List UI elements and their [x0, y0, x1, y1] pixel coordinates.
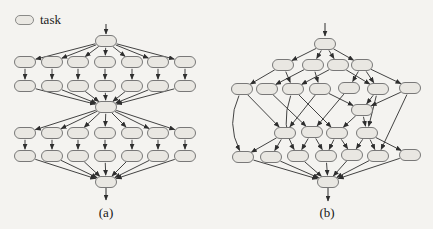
task-node	[122, 151, 143, 162]
task-node	[148, 151, 169, 162]
task-node	[175, 81, 196, 92]
task-node	[148, 128, 169, 139]
task-node	[233, 152, 254, 163]
task-node	[352, 105, 373, 116]
task-node	[328, 60, 349, 71]
edge	[290, 95, 315, 127]
task-node	[357, 128, 378, 139]
caption-b: (b)	[307, 205, 347, 221]
task-node	[232, 84, 253, 95]
task-node	[257, 84, 278, 95]
edge	[333, 49, 353, 60]
task-node	[15, 81, 36, 92]
task-node	[122, 57, 143, 68]
task-node	[315, 39, 336, 50]
task-node	[15, 128, 36, 139]
task-node	[275, 128, 296, 139]
legend-label: task	[40, 12, 61, 28]
task-node	[96, 177, 117, 188]
edge	[356, 139, 362, 148]
task-node	[261, 152, 282, 163]
edge	[376, 138, 401, 151]
task-node	[175, 57, 196, 68]
task-node	[310, 84, 331, 95]
edge	[251, 138, 276, 152]
task-node-swatch	[15, 15, 34, 25]
figure-fork-join-dag	[15, 24, 196, 200]
task-node	[303, 60, 324, 71]
task-node	[95, 128, 116, 139]
edge	[275, 139, 281, 150]
edge	[316, 138, 322, 149]
task-node	[95, 81, 116, 92]
edge	[317, 94, 344, 126]
task-node	[15, 57, 36, 68]
task-node	[288, 151, 309, 162]
task-node	[339, 83, 360, 94]
curved-edge	[233, 96, 240, 151]
task-node	[283, 84, 304, 95]
edge	[343, 116, 355, 127]
task-node	[316, 151, 337, 162]
edge	[329, 93, 353, 105]
edge	[338, 158, 400, 178]
task-node	[42, 128, 63, 139]
task-node	[352, 60, 373, 71]
dag-diagrams	[0, 0, 433, 229]
task-node	[175, 128, 196, 139]
task-node	[96, 102, 117, 113]
edge	[329, 50, 334, 58]
edge	[299, 95, 331, 127]
edge	[370, 140, 375, 150]
task-node	[368, 84, 389, 95]
task-node	[68, 57, 89, 68]
task-node	[342, 150, 363, 161]
caption-a: (a)	[86, 205, 126, 221]
edge	[305, 162, 322, 177]
task-node	[318, 177, 339, 188]
edge	[327, 163, 328, 175]
task-node	[148, 57, 169, 68]
task-node	[68, 81, 89, 92]
edge	[115, 160, 149, 177]
edge	[84, 113, 100, 127]
edge	[329, 140, 334, 150]
edge	[112, 162, 126, 176]
edge	[115, 111, 149, 128]
task-node	[400, 150, 421, 161]
task-node	[327, 128, 348, 139]
task-node	[175, 151, 196, 162]
task-node	[122, 128, 143, 139]
task-node	[42, 57, 63, 68]
task-node	[68, 151, 89, 162]
edge	[367, 95, 374, 104]
task-node	[400, 83, 421, 94]
edge	[371, 69, 401, 83]
edge	[292, 48, 316, 60]
legend: task	[15, 12, 61, 28]
task-node	[302, 127, 323, 138]
edge	[248, 95, 279, 127]
edge	[112, 113, 126, 127]
task-node	[368, 151, 389, 162]
figure-canvas: task (a) (b)	[0, 0, 433, 229]
task-node	[42, 151, 63, 162]
edge	[341, 139, 347, 148]
edge	[317, 50, 322, 58]
task-node	[15, 151, 36, 162]
task-node	[148, 81, 169, 92]
edge	[337, 161, 369, 178]
task-node	[96, 36, 117, 47]
edge	[366, 71, 374, 82]
task-node	[273, 60, 294, 71]
edge	[381, 95, 407, 150]
task-node	[95, 151, 116, 162]
task-node	[95, 57, 116, 68]
edge	[84, 162, 100, 176]
figure-irregular-dag	[232, 23, 421, 201]
edge	[302, 138, 308, 149]
edge	[250, 70, 274, 84]
task-node	[42, 81, 63, 92]
edge	[302, 70, 330, 85]
task-node	[68, 128, 89, 139]
